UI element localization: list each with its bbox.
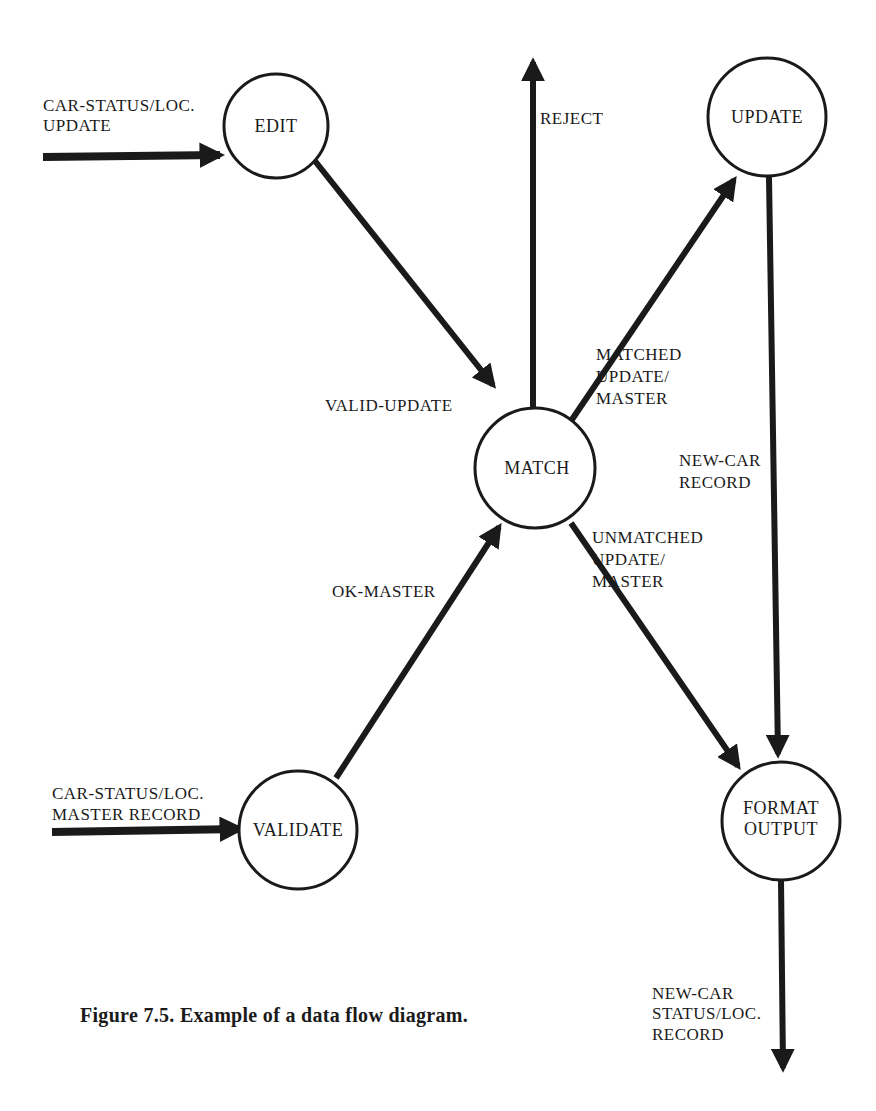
process-label: VALIDATE xyxy=(253,820,344,840)
process-label: UPDATE xyxy=(731,107,803,127)
process-edit: EDIT xyxy=(224,74,328,178)
flow-label: UNMATCHED xyxy=(592,528,703,547)
process-format-output: FORMAT OUTPUT xyxy=(722,762,840,880)
flow-label: RECORD xyxy=(652,1025,724,1044)
arrow-icon xyxy=(336,527,499,778)
process-label: OUTPUT xyxy=(744,819,818,839)
flow-label: UPDATE/ xyxy=(596,367,669,386)
arrow-icon xyxy=(43,155,220,157)
process-label: EDIT xyxy=(255,116,298,136)
flow-label: NEW-CAR xyxy=(679,451,761,470)
process-label: MATCH xyxy=(504,458,570,478)
flow-new-car-status: NEW-CAR STATUS/LOC. RECORD xyxy=(652,880,783,1068)
figure-caption: Figure 7.5. Example of a data flow diagr… xyxy=(80,1004,468,1027)
arrow-icon xyxy=(769,177,778,754)
flow-label: MASTER xyxy=(592,572,664,591)
flow-new-car-record: NEW-CAR RECORD xyxy=(679,177,778,754)
process-label: FORMAT xyxy=(743,798,819,818)
arrow-icon xyxy=(315,161,493,385)
data-flow-diagram: CAR-STATUS/LOC. UPDATE VALID-UPDATE REJE… xyxy=(0,0,876,1111)
arrow-icon xyxy=(781,880,783,1068)
flow-label: MASTER xyxy=(596,389,668,408)
flow-unmatched: UNMATCHED UPDATE/ MASTER xyxy=(571,523,738,766)
flow-label: CAR-STATUS/LOC. xyxy=(43,96,195,115)
flow-label: MATCHED xyxy=(596,345,682,364)
flow-matched: MATCHED UPDATE/ MASTER xyxy=(571,180,734,421)
flow-label: STATUS/LOC. xyxy=(652,1004,761,1023)
flow-label: REJECT xyxy=(540,109,604,128)
flow-label: UPDATE xyxy=(43,116,111,135)
process-match: MATCH xyxy=(475,408,595,528)
flow-label: UPDATE/ xyxy=(592,550,665,569)
flow-reject: REJECT xyxy=(533,62,604,408)
flow-label: MASTER RECORD xyxy=(52,805,201,824)
process-validate: VALIDATE xyxy=(239,771,357,889)
flow-label: RECORD xyxy=(679,473,751,492)
flow-valid-update: VALID-UPDATE xyxy=(315,161,493,415)
arrow-icon xyxy=(52,829,240,832)
process-update: UPDATE xyxy=(708,58,826,176)
flow-label: VALID-UPDATE xyxy=(325,396,453,415)
flow-car-status-update: CAR-STATUS/LOC. UPDATE xyxy=(43,96,220,157)
flow-label: OK-MASTER xyxy=(332,582,436,601)
flow-label: NEW-CAR xyxy=(652,984,734,1003)
flow-ok-master: OK-MASTER xyxy=(332,527,499,778)
flow-label: CAR-STATUS/LOC. xyxy=(52,784,204,803)
flow-car-status-master: CAR-STATUS/LOC. MASTER RECORD xyxy=(52,784,240,832)
